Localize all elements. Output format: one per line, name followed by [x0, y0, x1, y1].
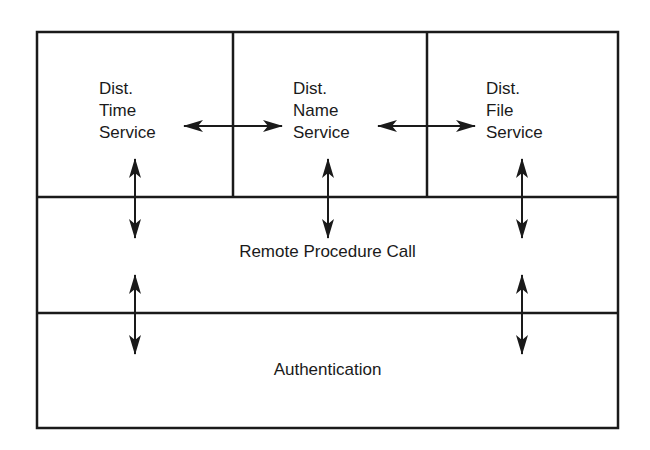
diagram-canvas: [0, 0, 650, 450]
layer-rpc-label: Remote Procedure Call: [37, 241, 618, 263]
service-name-line-2: Name: [293, 100, 350, 122]
service-time-label: Dist. Time Service: [99, 78, 156, 144]
service-name-line-3: Service: [293, 122, 350, 144]
service-name-line-1: Dist.: [293, 78, 350, 100]
service-time-line-3: Service: [99, 122, 156, 144]
service-name-label: Dist. Name Service: [293, 78, 350, 144]
service-time-line-1: Dist.: [99, 78, 156, 100]
service-file-line-3: Service: [486, 122, 543, 144]
layer-auth-label: Authentication: [37, 359, 618, 381]
service-file-line-1: Dist.: [486, 78, 543, 100]
service-file-line-2: File: [486, 100, 543, 122]
architecture-diagram: Dist. Time Service Dist. Name Service Di…: [0, 0, 650, 450]
service-time-line-2: Time: [99, 100, 156, 122]
service-file-label: Dist. File Service: [486, 78, 543, 144]
